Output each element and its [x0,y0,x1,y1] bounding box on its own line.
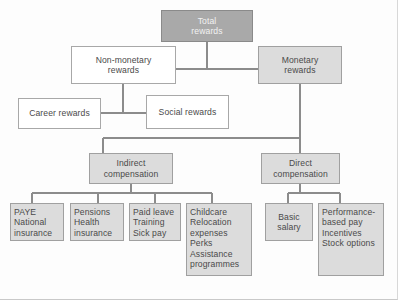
node-total-rewards-line-2: rewards [191,26,222,36]
node-social-rewards[interactable]: Social rewards [146,95,229,129]
node-childcare-line-2: Relocation [190,217,232,227]
node-career-rewards[interactable]: Career rewards [18,98,101,129]
node-paye[interactable]: PAYE National insurance [10,203,64,241]
node-non-monetary-rewards[interactable]: Non-monetary rewards [71,46,176,84]
node-indirect-line-1: Indirect [117,158,146,168]
node-performance-line-3: Incentives [322,228,362,238]
node-childcare-line-3: expenses [190,228,228,238]
node-performance-pay[interactable]: Performance- based pay Incentives Stock … [318,203,384,276]
node-pensions-line-1: Pensions [74,207,110,217]
node-pensions-line-3: insurance [74,228,112,238]
node-career-label: Career rewards [29,108,90,118]
node-childcare-line-1: Childcare [190,207,227,217]
node-childcare[interactable]: Childcare Relocation expenses Perks Assi… [186,203,252,276]
node-social-label: Social rewards [159,107,217,117]
node-basic-salary-line-1: Basic [278,212,300,222]
node-non-monetary-line-2: rewards [108,65,139,75]
node-non-monetary-line-1: Non-monetary [96,55,152,65]
node-pensions-line-2: Health [74,217,99,227]
node-monetary-line-1: Monetary [282,55,319,65]
node-monetary-rewards[interactable]: Monetary rewards [258,46,342,84]
node-basic-salary[interactable]: Basic salary [265,203,313,241]
node-direct-compensation[interactable]: Direct compensation [261,153,340,184]
node-paid-leave[interactable]: Paid leave Training Sick pay [129,203,181,241]
node-paid-leave-line-3: Sick pay [133,228,166,238]
node-paid-leave-line-2: Training [133,217,165,227]
node-childcare-line-5: Assistance [190,249,233,259]
node-performance-line-4: Stock options [322,238,375,248]
node-total-rewards-line-1: Total [198,16,217,26]
node-performance-line-2: based pay [322,217,363,227]
node-pensions[interactable]: Pensions Health insurance [70,203,124,241]
node-direct-line-1: Direct [289,158,312,168]
total-rewards-diagram: Total rewards Non-monetary rewards Monet… [0,0,398,300]
node-paid-leave-line-1: Paid leave [133,207,174,217]
node-indirect-compensation[interactable]: Indirect compensation [89,153,173,184]
node-direct-line-2: compensation [273,169,328,179]
node-indirect-line-2: compensation [104,169,159,179]
node-paye-line-2: National [14,217,46,227]
node-monetary-line-2: rewards [284,65,315,75]
node-paye-line-1: PAYE [14,207,36,217]
node-performance-line-1: Performance- [322,207,375,217]
node-paye-line-3: insurance [14,228,52,238]
node-childcare-line-6: programmes [190,259,239,269]
node-total-rewards[interactable]: Total rewards [161,10,253,42]
node-basic-salary-line-2: salary [277,222,301,232]
node-childcare-line-4: Perks [190,238,212,248]
